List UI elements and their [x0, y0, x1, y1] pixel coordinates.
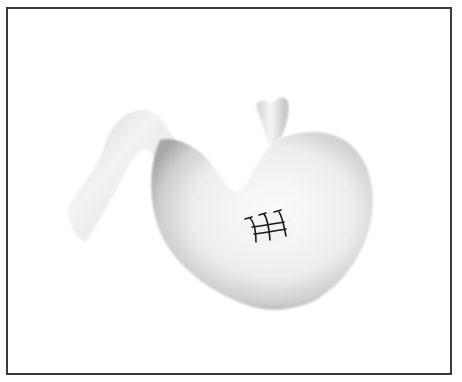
- suture-patch: [239, 210, 295, 246]
- stomach-illustration: [0, 0, 462, 382]
